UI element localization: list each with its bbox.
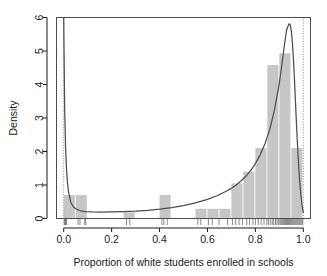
x-axis-tick-label: 0.8 <box>248 233 263 245</box>
y-axis-tick-label: 2 <box>33 148 45 154</box>
y-axis-title: Density <box>7 100 19 136</box>
rug-marks <box>64 219 303 225</box>
histogram-bar <box>255 148 266 218</box>
histogram-bars <box>64 53 303 218</box>
histogram-bar <box>279 53 290 218</box>
histogram-bar <box>160 195 171 218</box>
chart-canvas: 0.00.20.40.60.81.00123456Proportion of w… <box>0 0 327 276</box>
histogram-bar <box>231 183 242 218</box>
y-axis-tick-label: 4 <box>33 81 45 87</box>
histogram-bar <box>267 65 278 218</box>
histogram-bar <box>291 148 302 218</box>
x-axis-tick-label: 0.2 <box>104 233 119 245</box>
x-axis-tick-label: 1.0 <box>296 233 311 245</box>
density-curve <box>64 18 304 213</box>
x-axis-title: Proportion of white students enrolled in… <box>73 256 293 268</box>
histogram-bar <box>243 172 254 219</box>
histogram-bar <box>124 212 135 218</box>
x-axis-tick-label: 0.0 <box>56 233 71 245</box>
y-axis-tick-label: 1 <box>33 182 45 188</box>
y-axis-tick-label: 6 <box>33 14 45 20</box>
density-plot-figure: 0.00.20.40.60.81.00123456Proportion of w… <box>0 0 327 276</box>
x-axis-tick-label: 0.4 <box>152 233 167 245</box>
histogram-bar <box>76 195 87 218</box>
y-axis-tick-label: 5 <box>33 48 45 54</box>
y-axis-tick-label: 0 <box>33 215 45 221</box>
plot-content <box>64 18 304 219</box>
x-axis: 0.00.20.40.60.81.0 <box>56 228 310 245</box>
y-axis: 0123456 <box>33 14 47 221</box>
histogram-bar <box>195 209 206 219</box>
histogram-bar <box>219 209 230 219</box>
x-axis-tick-label: 0.6 <box>200 233 215 245</box>
y-axis-tick-label: 3 <box>33 115 45 121</box>
histogram-bar <box>207 209 218 219</box>
